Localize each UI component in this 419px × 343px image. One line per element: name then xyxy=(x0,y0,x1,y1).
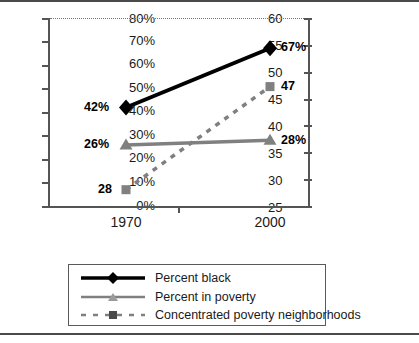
plot-area: 42% 67% 26% 28% 28 47 1970 2000 xyxy=(48,18,310,208)
legend-swatch-concentrated-poverty xyxy=(77,307,149,323)
series-line-percent-black xyxy=(126,48,270,107)
data-label-concentrated-poverty-2000: 47 xyxy=(281,80,295,93)
marker-percent-black-1970 xyxy=(119,100,133,116)
marker-concentrated-poverty-2000 xyxy=(266,82,275,91)
legend: Percent black Percent in poverty Concent… xyxy=(68,264,326,326)
series-line-percent-in-poverty xyxy=(126,140,270,145)
legend-swatch-percent-in-poverty xyxy=(77,289,149,305)
marker-concentrated-poverty-1970 xyxy=(122,185,131,194)
chart-figure: 80% 70% 60% 50% 40% 30% 20% 10% 0% 60 55… xyxy=(0,0,419,343)
data-label-percent-in-poverty-1970: 26% xyxy=(84,138,109,151)
bottom-rule xyxy=(0,333,419,335)
marker-percent-black-2000 xyxy=(263,40,277,56)
x-axis-label-1970: 1970 xyxy=(86,214,166,230)
legend-swatch-percent-black xyxy=(77,270,149,286)
data-label-percent-in-poverty-2000: 28% xyxy=(281,134,306,147)
legend-label-concentrated-poverty: Concentrated poverty neighborhoods xyxy=(155,308,361,322)
x-axis-label-2000: 2000 xyxy=(230,214,310,230)
legend-item-percent-in-poverty: Percent in poverty xyxy=(77,288,256,306)
series-line-concentrated-poverty xyxy=(126,87,270,190)
data-label-percent-black-1970: 42% xyxy=(84,101,109,114)
right-axis-title-text: Concentrated poverty neighborhoods xyxy=(352,0,378,20)
legend-item-percent-black: Percent black xyxy=(77,269,231,287)
legend-label-percent-in-poverty: Percent in poverty xyxy=(155,290,256,304)
data-label-concentrated-poverty-1970: 28 xyxy=(98,183,112,196)
right-axis-title: Concentrated poverty neighborhoods xyxy=(335,0,395,20)
legend-label-percent-black: Percent black xyxy=(155,271,231,285)
data-label-percent-black-2000: 67% xyxy=(281,41,306,54)
legend-item-concentrated-poverty: Concentrated poverty neighborhoods xyxy=(77,306,361,324)
